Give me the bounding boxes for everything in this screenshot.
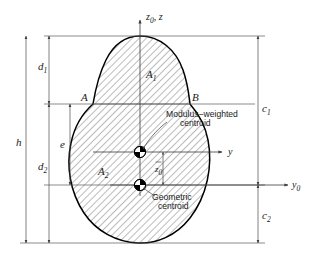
callout-geometric-line2: centroid [158, 201, 189, 211]
dimension-label-d2: d2 [38, 160, 48, 175]
area-label-A1-subscript: 1 [153, 74, 157, 83]
callout-geometric-centroid: Geometric centroid [152, 192, 192, 211]
z-axis-label-suffix: , z [154, 11, 163, 22]
dimension-label-zbar0-subscript: 0 [159, 168, 163, 177]
dimension-label-h: h [16, 136, 22, 148]
dimension-label-c2-subscript: 2 [267, 215, 271, 224]
dimension-label-d1-subscript: 1 [44, 66, 48, 75]
dimension-label-e: e [60, 138, 65, 150]
area-label-A2-subscript: 2 [105, 171, 109, 180]
dimension-label-c1: c1 [262, 102, 271, 117]
callout-modulus-weighted-line2: centroid [180, 118, 211, 128]
y0-axis-label-group: y0 [291, 179, 300, 193]
point-label-B: B [192, 91, 199, 103]
dimension-c2: c2 [258, 185, 271, 243]
dimension-label-c2: c2 [262, 209, 271, 224]
dimension-d2: d2 [38, 104, 49, 243]
dimension-c1: c1 [258, 36, 271, 185]
geometric-centroid-marker [134, 179, 145, 190]
y-axis-label: y [227, 146, 233, 157]
dimension-h: h [16, 36, 26, 243]
diagram-canvas: z0, z y y0 h d1 d2 [0, 0, 309, 260]
dimension-d1: d1 [38, 36, 49, 104]
centroid-diagram-figure: z0, z y y0 h d1 d2 [0, 0, 309, 260]
dimension-label-d1: d1 [38, 60, 47, 75]
dimension-e: e [60, 104, 70, 185]
z-axis-label-group: z0, z [145, 11, 163, 25]
y0-axis-label-subscript: 0 [296, 184, 300, 193]
point-label-A: A [80, 91, 88, 103]
dimension-label-d2-subscript: 2 [44, 166, 48, 175]
dimension-label-c1-subscript: 1 [267, 108, 271, 117]
